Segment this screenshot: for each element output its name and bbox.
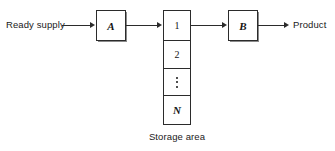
process-box-a[interactable]: A — [96, 10, 126, 41]
connector-supply-to-a-arrowhead — [90, 22, 95, 28]
ready-supply-label: Ready supply — [6, 19, 65, 30]
process-box-b[interactable]: B — [228, 10, 258, 41]
storage-cell-1-label: 1 — [175, 20, 180, 31]
storage-cell-1[interactable]: 1 — [164, 11, 190, 41]
process-box-b-label: B — [239, 20, 246, 32]
vertical-ellipsis-icon — [176, 77, 178, 88]
process-box-a-label: A — [107, 20, 114, 32]
storage-cell-ellipsis[interactable] — [164, 69, 190, 96]
storage-area-caption: Storage area — [137, 131, 217, 142]
storage-area-column: 1 2 N — [163, 10, 191, 125]
connector-a-to-storage-line — [126, 25, 157, 26]
connector-storage-to-b-arrowhead — [222, 22, 227, 28]
storage-cell-2-label: 2 — [175, 49, 180, 60]
storage-cell-2[interactable]: 2 — [164, 41, 190, 69]
connector-b-to-product-line — [258, 25, 284, 26]
storage-cell-n[interactable]: N — [164, 96, 190, 124]
connector-b-to-product-arrowhead — [284, 22, 289, 28]
connector-a-to-storage-arrowhead — [157, 22, 162, 28]
connector-supply-to-a-line — [62, 25, 90, 26]
flow-diagram: Ready supply A 1 2 N Storage area B — [0, 0, 335, 151]
connector-storage-to-b-line — [191, 25, 222, 26]
product-label: Product — [293, 19, 326, 30]
storage-cell-n-label: N — [173, 104, 181, 116]
